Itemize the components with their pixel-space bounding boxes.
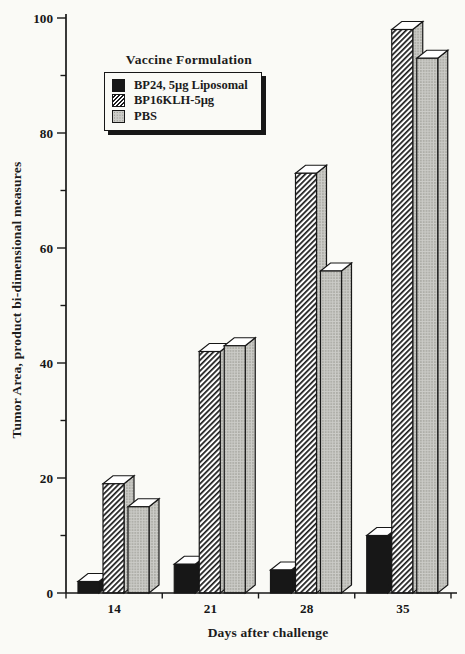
bar-side-face	[438, 50, 448, 593]
bar-group-28	[271, 165, 352, 593]
y-tick-label: 60	[40, 241, 54, 256]
legend: BP24, 5µg Liposomal BP16KLH-5µg PBS	[104, 72, 262, 131]
legend-swatch-gray-stipple-icon	[112, 110, 125, 123]
y-tick-label: 0	[46, 586, 53, 601]
bar-front-face	[417, 58, 438, 593]
legend-item-bp24: BP24, 5µg Liposomal	[112, 78, 255, 93]
legend-item-pbs: PBS	[112, 109, 255, 124]
bar-gray-stipple-day-28	[321, 263, 352, 593]
bar-front-face	[271, 570, 292, 593]
bar-group-14	[78, 476, 159, 593]
y-tick-label: 80	[40, 126, 54, 141]
bar-front-face	[174, 564, 195, 593]
x-tick-label: 35	[396, 601, 410, 616]
legend-label: PBS	[134, 109, 157, 124]
legend-label: BP16KLH-5µg	[134, 93, 214, 108]
legend-swatch-diagonal-hatch-icon	[112, 94, 125, 107]
bar-side-face	[245, 338, 255, 593]
legend-swatch-solid-black-icon	[112, 79, 125, 92]
bar-group-21	[174, 338, 255, 593]
bar-front-face	[78, 582, 99, 594]
bar-front-face	[103, 484, 124, 593]
bar-front-face	[392, 30, 413, 594]
bar-gray-stipple-day-21	[224, 338, 255, 593]
y-tick-label: 20	[40, 471, 54, 486]
bar-front-face	[367, 536, 388, 594]
bar-side-face	[342, 263, 352, 593]
y-tick-label: 100	[33, 11, 53, 26]
x-tick-label: 14	[108, 601, 122, 616]
bar-gray-stipple-day-14	[128, 499, 159, 593]
x-axis-title: Days after challenge	[208, 625, 329, 641]
y-axis-title: Tumor Area, product bi-dimensional measu…	[9, 162, 25, 439]
bar-front-face	[296, 173, 317, 593]
bar-front-face	[128, 507, 149, 593]
bar-side-face	[149, 499, 159, 593]
y-tick-label: 40	[40, 356, 54, 371]
x-tick-label: 21	[204, 601, 217, 616]
bar-gray-stipple-day-35	[417, 50, 448, 593]
legend-item-bp16klh: BP16KLH-5µg	[112, 94, 255, 109]
bar-front-face	[199, 352, 220, 594]
bar-group-35	[367, 22, 448, 594]
legend-label: BP24, 5µg Liposomal	[134, 78, 248, 93]
x-tick-label: 28	[300, 601, 314, 616]
bar-chart-figure: 02040608010014212835 Tumor Area, product…	[0, 0, 465, 654]
bar-front-face	[321, 271, 342, 593]
bar-front-face	[224, 346, 245, 593]
legend-title: Vaccine Formulation	[126, 52, 252, 68]
